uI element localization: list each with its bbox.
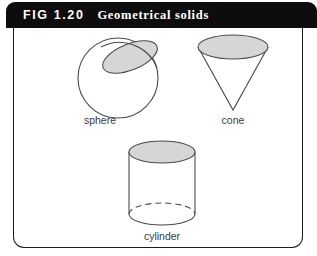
- sphere-label: sphere: [50, 114, 150, 126]
- cone-label: cone: [193, 114, 273, 126]
- figure-panel: [13, 28, 303, 248]
- figure-header-bar: FIG 1.20 Geometrical solids: [6, 2, 317, 28]
- figure-header-content: FIG 1.20 Geometrical solids: [23, 2, 209, 28]
- figure-number: FIG 1.20: [23, 8, 84, 22]
- figure-title: Geometrical solids: [97, 8, 209, 23]
- cylinder-label: cylinder: [112, 230, 212, 242]
- figure-container: FIG 1.20 Geometrical solids sphere cone …: [0, 0, 317, 256]
